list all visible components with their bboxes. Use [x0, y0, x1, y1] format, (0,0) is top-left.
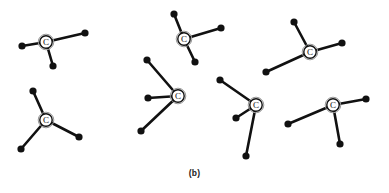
top-right-unit: C	[262, 18, 345, 75]
terminal-dot	[170, 10, 177, 17]
terminal-dot	[290, 18, 297, 25]
terminal-dot	[144, 94, 151, 101]
terminal-dot	[262, 68, 269, 75]
figure-caption: (b)	[0, 168, 389, 178]
top-left-unit: C	[18, 29, 88, 69]
center-atom-label: C	[253, 100, 259, 110]
figure-panel-b: CCCCCCC (b)	[0, 0, 389, 193]
terminal-dot	[137, 127, 144, 134]
terminal-dot	[362, 95, 369, 102]
center-atom-label: C	[181, 34, 187, 44]
molecular-units-diagram: CCCCCCC	[0, 0, 389, 193]
bottom-middle-unit: C	[216, 76, 263, 159]
top-middle-unit: C	[170, 10, 224, 65]
terminal-dot	[17, 145, 24, 152]
terminal-dot	[284, 120, 291, 127]
center-middle-unit: C	[137, 56, 185, 134]
terminal-dot	[75, 133, 82, 140]
center-atom-label: C	[307, 47, 313, 57]
bond-line	[266, 52, 310, 72]
bond-line	[147, 60, 178, 96]
center-atom-label: C	[43, 115, 49, 125]
center-atom-label: C	[43, 37, 49, 47]
terminal-dot	[232, 114, 239, 121]
terminal-dot	[336, 140, 343, 147]
terminal-dot	[217, 24, 224, 31]
terminal-dot	[18, 42, 25, 49]
terminal-dot	[191, 58, 198, 65]
terminal-dot	[49, 62, 56, 69]
bottom-right-unit: C	[284, 95, 369, 147]
center-atom-label: C	[330, 100, 336, 110]
terminal-dot	[143, 56, 150, 63]
bottom-left-unit: C	[17, 87, 82, 152]
terminal-dot	[242, 152, 249, 159]
center-atom-label: C	[175, 91, 181, 101]
terminal-dot	[216, 76, 223, 83]
terminal-dot	[81, 29, 88, 36]
terminal-dot	[29, 87, 36, 94]
terminal-dot	[338, 39, 345, 46]
